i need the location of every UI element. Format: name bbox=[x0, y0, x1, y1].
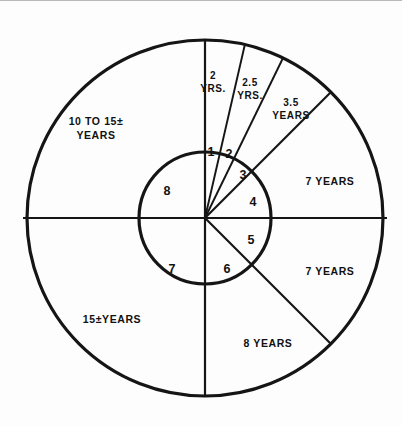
inner-sector-4-label: 4 bbox=[250, 195, 257, 209]
inner-sector-8-label: 8 bbox=[164, 184, 171, 198]
inner-sector-3-label: 3 bbox=[240, 168, 247, 182]
outer-sector-10-to-15years-label-line1: 10 TO 15± bbox=[69, 115, 124, 127]
inner-sector-7-label: 7 bbox=[169, 262, 176, 276]
outer-sector-2-5yrs-label-line1: 2.5 bbox=[242, 77, 258, 88]
outer-sector-3-5years-label-line2: YEARS bbox=[272, 110, 309, 121]
outer-sector-2yrs-label-line2: YRS. bbox=[200, 83, 226, 94]
outer-sector-10-to-15years-label-line2: YEARS bbox=[76, 129, 115, 141]
outer-sector-2yrs-label-line1: 2 bbox=[210, 70, 216, 81]
wheel-diagram: 1 2 3 4 5 6 7 8 2 YRS. 2.5 YRS. 3.5 YEAR… bbox=[0, 1, 402, 426]
outer-sector-3-5years-label-line1: 3.5 bbox=[283, 97, 299, 108]
outer-sector-8years-label: 8 YEARS bbox=[244, 337, 293, 349]
inner-sector-1-label: 1 bbox=[208, 145, 215, 159]
outer-sector-7years-upper-label: 7 YEARS bbox=[306, 175, 355, 187]
inner-sector-5-label: 5 bbox=[248, 233, 255, 247]
inner-sector-6-label: 6 bbox=[224, 262, 231, 276]
outer-sector-15years-label: 15±YEARS bbox=[83, 313, 141, 325]
outer-sector-7years-lower-label: 7 YEARS bbox=[306, 265, 355, 277]
inner-sector-2-label: 2 bbox=[226, 147, 233, 161]
figure-frame: 1 2 3 4 5 6 7 8 2 YRS. 2.5 YRS. 3.5 YEAR… bbox=[0, 0, 402, 426]
outer-sector-2-5yrs-label-line2: YRS. bbox=[237, 90, 263, 101]
